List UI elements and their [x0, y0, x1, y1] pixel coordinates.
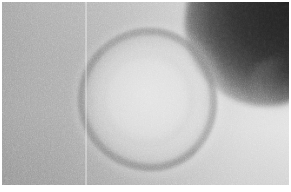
page-margin-bottom — [0, 185, 291, 192]
page-margin-top — [0, 0, 291, 2]
page-margin-left — [0, 0, 2, 192]
page-margin-right — [289, 0, 291, 192]
micrograph-plate — [2, 2, 289, 185]
micrograph-frame — [0, 0, 291, 192]
fine-grain-texture — [2, 2, 289, 185]
